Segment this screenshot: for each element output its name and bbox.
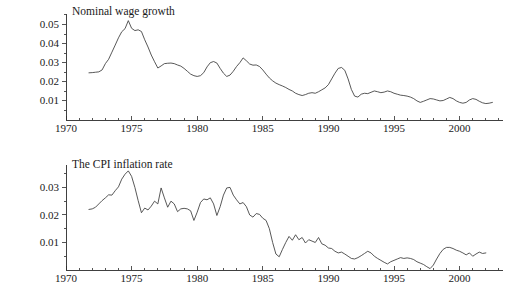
y-tick-label: 0.01	[40, 236, 59, 248]
x-tick-label: 2000	[449, 272, 472, 284]
nominal-wage-growth-chart: 0.010.020.030.040.0519701975198019851990…	[0, 0, 526, 152]
chart-title: Nominal wage growth	[72, 5, 175, 18]
figure-caption	[0, 296, 526, 305]
x-tick-label: 1990	[317, 122, 340, 134]
x-tick-label: 1970	[55, 272, 78, 284]
y-tick-label: 0.02	[40, 75, 59, 87]
chart-title: The CPI inflation rate	[72, 158, 173, 170]
x-tick-label: 1985	[252, 272, 275, 284]
x-tick-label: 1990	[317, 272, 340, 284]
cpi-inflation-rate-chart: 0.010.020.031970197519801985199019952000…	[0, 152, 526, 305]
x-tick-label: 1980	[186, 122, 209, 134]
series-line	[89, 171, 486, 269]
x-tick-label: 1985	[252, 122, 275, 134]
figure-two-panel-timeseries: 0.010.020.030.040.0519701975198019851990…	[0, 0, 526, 305]
x-tick-label: 1995	[383, 272, 406, 284]
chart-panel-cpi-inflation-rate: 0.010.020.031970197519801985199019952000…	[0, 152, 526, 305]
x-tick-label: 2000	[449, 122, 472, 134]
x-tick-label: 1970	[55, 122, 78, 134]
x-tick-label: 1975	[121, 122, 144, 134]
chart-panel-nominal-wage-growth: 0.010.020.030.040.0519701975198019851990…	[0, 0, 526, 152]
x-tick-label: 1980	[186, 272, 209, 284]
y-tick-label: 0.01	[40, 94, 59, 106]
y-tick-label: 0.02	[40, 209, 59, 221]
y-tick-label: 0.03	[40, 181, 60, 193]
y-tick-label: 0.04	[40, 37, 60, 49]
x-tick-label: 1995	[383, 122, 406, 134]
y-tick-label: 0.05	[40, 18, 60, 30]
series-line	[89, 21, 492, 104]
y-tick-label: 0.03	[40, 56, 60, 68]
x-tick-label: 1975	[121, 272, 144, 284]
